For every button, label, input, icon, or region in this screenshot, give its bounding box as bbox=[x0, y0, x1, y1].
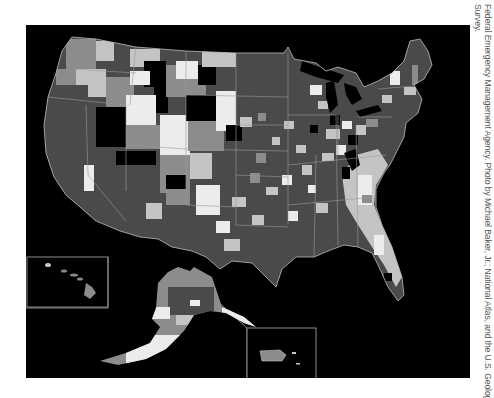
us-county-map bbox=[26, 25, 470, 378]
caption-line-1: Federal Emergency Management Agency. Pho… bbox=[483, 4, 493, 384]
map-caption: Federal Emergency Management Agency. Pho… bbox=[474, 4, 492, 384]
caption-line-2: Survey. bbox=[473, 4, 483, 384]
hawaii-inset bbox=[27, 257, 108, 307]
map-panel bbox=[26, 25, 470, 378]
conterminous-us bbox=[26, 25, 470, 378]
puerto-rico-inset bbox=[247, 328, 316, 378]
